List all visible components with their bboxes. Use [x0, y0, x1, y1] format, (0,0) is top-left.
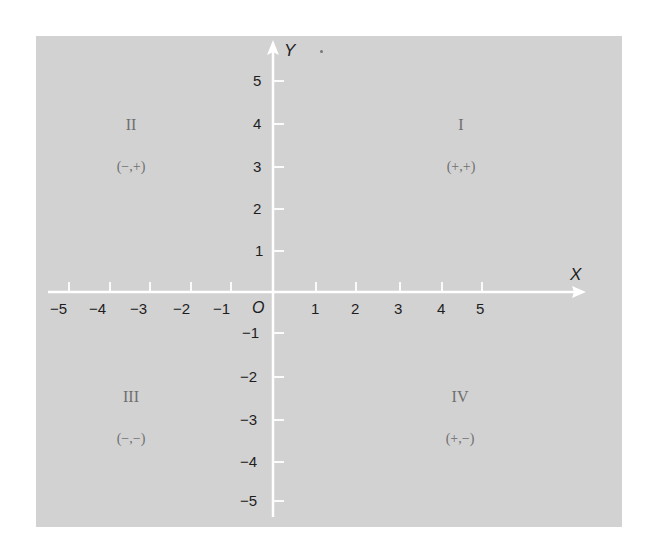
x-tick-label: 2 — [351, 301, 359, 316]
x-tick-label: −5 — [50, 301, 67, 316]
y-tick-label: −2 — [240, 369, 257, 384]
quadrant-ii-signs: (−,+) — [117, 160, 146, 174]
x-ticks — [69, 282, 482, 292]
y-tick-label: −3 — [240, 412, 257, 427]
x-tick-label: 4 — [437, 301, 445, 316]
y-tick-label: −4 — [240, 454, 257, 469]
y-tick-label: 2 — [253, 201, 261, 216]
origin-label: O — [252, 300, 264, 316]
x-tick-label: −3 — [130, 301, 147, 316]
quadrant-iv-signs: (+,−) — [446, 432, 475, 446]
quadrant-i-numeral: I — [458, 117, 463, 133]
y-axis-label: Y — [284, 42, 295, 59]
y-tick-label: −5 — [240, 493, 257, 508]
quadrant-i-signs: (+,+) — [447, 160, 476, 174]
x-tick-label: −4 — [89, 301, 106, 316]
y-tick-label: 1 — [255, 243, 263, 258]
x-tick-label: 3 — [394, 301, 402, 316]
y-tick-label: 4 — [253, 116, 261, 131]
coordinate-axes — [0, 0, 656, 550]
x-tick-label: −1 — [213, 301, 230, 316]
speck-dot — [320, 50, 323, 53]
x-axis-label: X — [570, 266, 581, 283]
x-tick-label: 1 — [311, 301, 319, 316]
quadrant-iii-signs: (−,−) — [117, 432, 146, 446]
x-tick-label: 5 — [476, 301, 484, 316]
quadrant-ii-numeral: II — [126, 117, 137, 133]
y-tick-label: 3 — [253, 159, 261, 174]
quadrant-iii-numeral: III — [123, 389, 139, 405]
y-tick-label: −1 — [242, 325, 259, 340]
x-axis-arrow-icon — [572, 286, 586, 298]
quadrant-iv-numeral: IV — [452, 389, 469, 405]
x-tick-label: −2 — [173, 301, 190, 316]
y-tick-label: 5 — [253, 73, 261, 88]
